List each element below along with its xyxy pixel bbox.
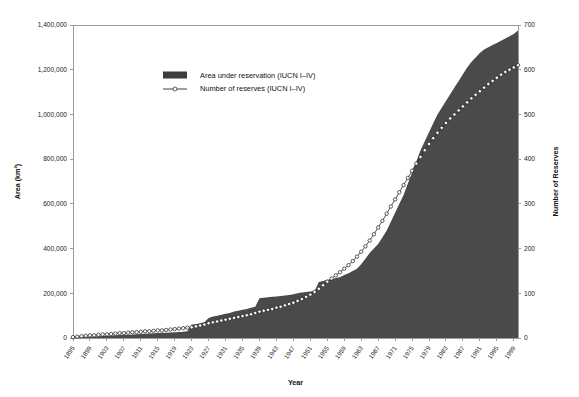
line-marker [126,331,129,334]
line-marker [440,126,443,129]
line-marker [423,149,426,152]
line-marker [262,309,265,312]
y-tick-label-left: 0 [63,334,67,341]
line-marker [516,64,519,67]
line-marker [245,314,248,317]
line-marker [80,335,83,338]
line-marker [220,319,223,322]
line-marker [474,93,477,96]
line-marker [177,327,180,330]
x-tick-label: 1947 [282,344,296,360]
y-tick-label-left: 800,000 [43,155,67,162]
x-tick-label: 1919 [164,344,178,360]
line-marker [508,68,511,71]
line-marker [499,73,502,76]
line-marker [313,290,316,293]
line-marker [156,329,159,332]
line-marker [292,301,295,304]
y-tick-label-right: 100 [524,290,535,297]
line-marker [487,82,490,85]
line-marker [203,323,206,326]
y-tick-label-left: 1,200,000 [38,66,68,73]
line-marker [385,212,388,215]
x-axis-title: Year [288,378,303,387]
line-marker [181,326,184,329]
line-marker [194,325,197,328]
x-tick-label: 1931 [215,344,229,360]
line-marker [461,105,464,108]
line-marker [279,305,282,308]
line-marker [427,142,430,145]
line-marker [287,302,290,305]
line-marker [326,280,329,283]
line-marker [448,117,451,120]
legend-label-area: Area under reservation (IUCN I–IV) [200,71,315,80]
y-tick-label-left: 600,000 [43,200,67,207]
line-marker [190,326,193,329]
line-marker [224,318,227,321]
x-tick-label: 1963 [350,344,364,360]
line-marker [169,328,172,331]
line-marker [491,79,494,82]
x-tick-label: 1895 [62,344,76,360]
line-marker [114,332,117,335]
line-marker [338,271,341,274]
y-tick-label-right: 0 [524,334,528,341]
x-tick-label: 1943 [265,344,279,360]
y-tick-label-right: 500 [524,111,535,118]
line-marker [343,267,346,270]
y-tick-label-left: 400,000 [43,245,67,252]
line-marker [504,70,507,73]
x-tick-label: 1975 [401,344,415,360]
line-marker [321,284,324,287]
x-tick-label: 1995 [486,344,500,360]
line-marker [415,162,418,165]
line-marker [232,316,235,319]
line-marker [270,307,273,310]
line-marker [105,333,108,336]
line-marker [482,86,485,89]
x-tick-label: 1911 [130,344,144,360]
line-marker [101,333,104,336]
y-tick-label-left: 200,000 [43,290,67,297]
x-tick-label: 1903 [96,344,110,360]
x-tick-label: 1983 [435,344,449,360]
x-tick-label: 1939 [249,344,263,360]
line-marker [241,314,244,317]
line-marker [334,274,337,277]
line-marker [393,198,396,201]
x-tick-label: 1967 [367,344,381,360]
line-marker [364,245,367,248]
line-marker [398,191,401,194]
line-marker [376,226,379,229]
y-tick-label-right: 600 [524,66,535,73]
legend-swatch-area [163,72,187,79]
line-marker [300,297,303,300]
x-tick-label: 1923 [181,344,195,360]
line-marker [88,334,91,337]
line-marker [330,277,333,280]
line-marker [432,136,435,139]
line-marker [304,295,307,298]
x-tick-label: 1951 [299,344,313,360]
x-tick-label: 1915 [147,344,161,360]
line-marker [372,233,375,236]
x-tick-label: 1987 [452,344,466,360]
line-marker [139,330,142,333]
line-marker [381,219,384,222]
y-axis-title: Area (km²) [13,163,22,199]
line-marker [92,334,95,337]
line-marker [275,306,278,309]
line-marker [410,169,413,172]
y-tick-label-left: 1,400,000 [38,21,68,28]
line-marker [84,334,87,337]
line-marker [406,176,409,179]
line-marker [211,321,214,324]
y-tick-label-right: 200 [524,245,535,252]
line-marker [355,255,358,258]
line-marker [351,259,354,262]
line-marker [317,287,320,290]
line-marker [152,329,155,332]
line-marker [97,333,100,336]
line-marker [512,66,515,69]
